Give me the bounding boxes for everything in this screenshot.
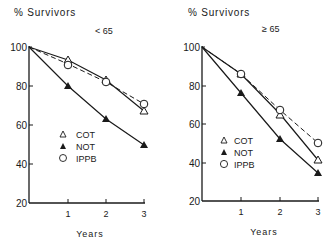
series-ippb-line — [202, 47, 318, 143]
x-ticks: 1 2 3 — [65, 199, 146, 219]
y-tick-label: 20 — [16, 198, 28, 209]
x-tick-label: 3 — [315, 207, 320, 217]
x-tick-label: 2 — [277, 207, 282, 217]
y-tick-label: 80 — [16, 81, 28, 92]
legend-label-ippb: IPPB — [76, 154, 97, 164]
x-tick-label: 1 — [238, 207, 243, 217]
y-tick-label: 20 — [189, 196, 201, 207]
x-axis-label: Years — [250, 227, 278, 237]
y-tick-label: 60 — [189, 119, 201, 130]
x-ticks: 1 2 3 — [238, 197, 320, 217]
legend: COT NOT IPPB — [220, 136, 254, 170]
series-not-line — [202, 47, 318, 173]
legend-label-cot: COT — [76, 130, 96, 140]
series-cot-line — [202, 47, 318, 160]
filled-triangle-icon — [221, 149, 227, 155]
panel-title: < 65 — [95, 26, 113, 36]
filled-triangle-icon — [60, 143, 66, 149]
y-tick-label: 40 — [189, 158, 201, 169]
open-triangle-icon — [60, 131, 66, 137]
x-tick-label: 3 — [141, 209, 146, 219]
legend: COT NOT IPPB — [60, 130, 97, 164]
survival-charts: % Survivors < 65 100 80 60 40 20 1 2 3 Y… — [0, 0, 325, 243]
legend-label-ippb: IPPB — [234, 160, 255, 170]
open-circle-icon — [60, 155, 67, 162]
x-tick-label: 2 — [103, 209, 108, 219]
legend-label-cot: COT — [234, 136, 254, 146]
y-tick-label: 60 — [16, 120, 28, 131]
y-axis-label: % Survivors — [188, 7, 250, 18]
x-axis-label: Years — [76, 229, 104, 239]
y-tick-label: 100 — [10, 42, 27, 53]
panel-title: ≥ 65 — [262, 24, 279, 34]
open-triangle-icon — [221, 137, 227, 143]
y-tick-label: 80 — [189, 81, 201, 92]
x-tick-label: 1 — [65, 209, 70, 219]
legend-label-not: NOT — [234, 148, 254, 158]
chart-panel-65-and-over: % Survivors ≥ 65 100 80 60 40 20 1 2 3 Y… — [183, 7, 322, 237]
series-ippb-line — [29, 47, 144, 104]
y-tick-label: 40 — [16, 159, 28, 170]
open-circle-icon — [220, 160, 227, 167]
legend-label-not: NOT — [76, 142, 96, 152]
y-axis-label: % Survivors — [14, 7, 76, 18]
chart-panel-under-65: % Survivors < 65 100 80 60 40 20 1 2 3 Y… — [10, 7, 148, 239]
y-tick-label: 100 — [183, 42, 200, 53]
